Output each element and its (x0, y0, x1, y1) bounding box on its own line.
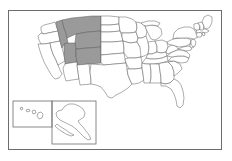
state-nebraska[interactable] (101, 31, 123, 42)
state-new-mexico[interactable] (77, 64, 91, 85)
state-michigan-up[interactable] (141, 21, 160, 26)
state-minnesota[interactable] (119, 17, 137, 33)
hawaii-inset-box (13, 101, 52, 127)
state-ohio[interactable] (155, 40, 168, 53)
state-arizona[interactable] (63, 62, 79, 81)
state-new-york[interactable] (173, 27, 198, 39)
us-choropleth-map-figure (0, 0, 232, 161)
state-north-dakota[interactable] (101, 16, 119, 25)
state-kansas[interactable] (101, 41, 124, 55)
state-michigan[interactable] (145, 25, 162, 40)
us-map-svg (0, 0, 232, 161)
state-south-dakota[interactable] (101, 24, 120, 32)
state-texas[interactable] (90, 63, 132, 98)
state-wyoming[interactable] (75, 31, 101, 49)
state-colorado[interactable] (76, 47, 101, 65)
state-arkansas[interactable] (125, 57, 142, 69)
hawaii-islands[interactable] (20, 107, 43, 119)
state-utah[interactable] (64, 43, 77, 64)
